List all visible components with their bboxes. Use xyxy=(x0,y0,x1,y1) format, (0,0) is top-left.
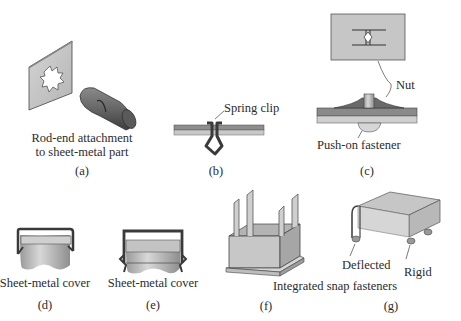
panel-g-callout-rigid: Rigid xyxy=(404,265,432,279)
panel-b-callout-spring-clip: Spring clip xyxy=(224,101,279,115)
panel-b-spring-clip xyxy=(174,111,264,154)
panel-c-callout-nut: Nut xyxy=(396,78,415,92)
panel-a-caption: (a) xyxy=(75,164,89,178)
panel-f-snap-box xyxy=(226,190,304,276)
panel-c-callout-push-on: Push-on fastener xyxy=(317,138,401,152)
panel-d-caption: (d) xyxy=(38,298,53,312)
fastener-figure xyxy=(0,0,461,321)
panel-b-caption: (b) xyxy=(209,164,224,178)
panel-e-cover xyxy=(120,231,186,274)
panel-f-caption: (f) xyxy=(260,299,273,313)
panel-d-label: Sheet-metal cover xyxy=(0,276,90,290)
panel-e-caption: (e) xyxy=(146,298,160,312)
panel-c-nut-plan xyxy=(331,14,405,97)
panel-a-plate xyxy=(29,41,73,110)
panel-g-caption: (g) xyxy=(384,299,399,313)
panel-c-push-on-section xyxy=(317,94,417,138)
panel-a-label-line2: to sheet-metal part xyxy=(35,145,128,159)
panel-g-snap-cover xyxy=(350,192,440,259)
panel-a-rod xyxy=(80,88,139,131)
panel-e-label: Sheet-metal cover xyxy=(108,276,199,290)
panel-c-caption: (c) xyxy=(360,164,374,178)
panel-a-label-line1: Rod-end attachment xyxy=(31,131,132,145)
panel-d-cover xyxy=(18,229,73,270)
shared-label-integrated-snap-fasteners: Integrated snap fasteners xyxy=(273,279,397,293)
panel-g-callout-deflected: Deflected xyxy=(342,258,391,272)
